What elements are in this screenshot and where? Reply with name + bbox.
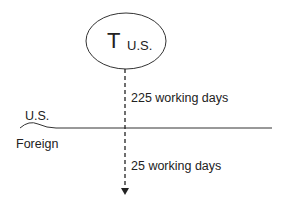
- node-subscript: U.S.: [127, 38, 152, 53]
- border-wave: [20, 123, 272, 128]
- node-subscript-text: U.S.: [127, 38, 152, 53]
- region-label-us: U.S.: [25, 109, 49, 123]
- node-ellipse: [86, 13, 166, 69]
- diagram-canvas: T U.S. 225 working days U.S. Foreign 25 …: [0, 0, 286, 209]
- region-label-foreign: Foreign: [16, 137, 58, 151]
- node-label: T: [107, 28, 120, 54]
- node-main-text: T: [107, 28, 120, 53]
- edge-label-lower: 25 working days: [131, 159, 221, 173]
- arrow-head-icon: [121, 188, 129, 195]
- edge-label-upper: 225 working days: [131, 91, 228, 105]
